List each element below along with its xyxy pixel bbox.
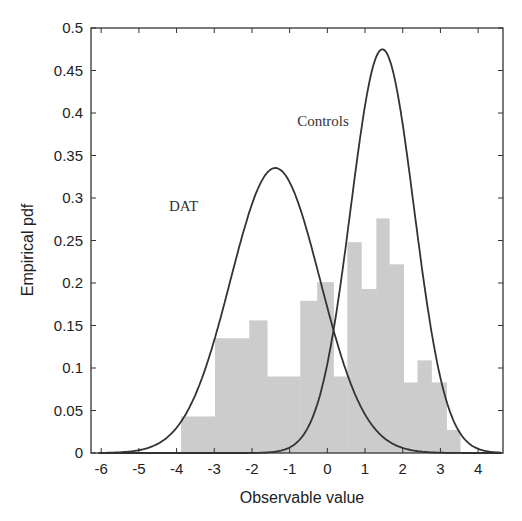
y-tick-label: 0.15 (54, 317, 83, 334)
y-tick-label: 0.2 (62, 274, 83, 291)
x-tick-label: -3 (208, 460, 221, 477)
histogram-bar (347, 242, 361, 453)
annotation-dat: DAT (169, 198, 198, 214)
x-tick-label: 4 (474, 460, 482, 477)
histogram-bar (376, 218, 389, 453)
x-tick-label: 3 (436, 460, 444, 477)
x-tick-label: 0 (323, 460, 331, 477)
y-tick-label: 0.4 (62, 104, 83, 121)
x-axis-title: Observable value (240, 489, 365, 506)
x-tick-label: -5 (132, 460, 145, 477)
y-tick-label: 0.05 (54, 402, 83, 419)
x-tick-label: -6 (95, 460, 108, 477)
y-tick-label: 0.45 (54, 62, 83, 79)
annotation-controls: Controls (297, 113, 349, 129)
chart: -6-5-4-3-2-101234 00.050.10.150.20.250.3… (0, 0, 522, 521)
y-tick-label: 0.1 (62, 359, 83, 376)
histogram-bar (249, 320, 267, 453)
histogram-bar (389, 264, 404, 453)
histogram-bar (417, 360, 431, 453)
y-axis-title: Empirical pdf (19, 203, 36, 296)
histogram-bar (446, 430, 460, 453)
histogram-bar (181, 416, 215, 453)
y-tick-label: 0 (75, 444, 83, 461)
histogram-bar (300, 301, 317, 453)
histogram-bar (403, 382, 417, 453)
histogram-bar (333, 377, 347, 454)
y-tick-label: 0.5 (62, 19, 83, 36)
x-tick-label: 1 (361, 460, 369, 477)
x-tick-label: -2 (245, 460, 258, 477)
histogram-bar (215, 338, 250, 453)
histogram-bar (267, 377, 301, 454)
histogram-bar (317, 282, 334, 453)
histogram-bars (181, 218, 460, 453)
x-tick-label: -1 (283, 460, 296, 477)
y-tick-label: 0.25 (54, 232, 83, 249)
y-tick-label: 0.3 (62, 189, 83, 206)
x-tick-label: -4 (170, 460, 183, 477)
y-tick-label: 0.35 (54, 147, 83, 164)
x-tick-label: 2 (399, 460, 407, 477)
